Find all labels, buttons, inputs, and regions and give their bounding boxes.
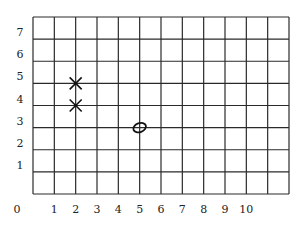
y-tick-label: 5 (17, 70, 24, 83)
x-tick-label: 3 (94, 203, 101, 216)
x-tick-label: 1 (51, 203, 58, 216)
x-tick-label: 6 (158, 203, 165, 216)
y-tick-label: 6 (17, 48, 24, 61)
tic-tac-toe-grid-diagram: 12345678910 1234567 0 (0, 0, 308, 227)
origin-label: 0 (14, 203, 21, 216)
grid-lines (33, 17, 289, 194)
y-axis-labels: 1234567 (17, 26, 24, 172)
x-tick-label: 5 (136, 203, 143, 216)
y-tick-label: 1 (17, 159, 24, 172)
x-tick-label: 8 (200, 203, 207, 216)
y-tick-label: 3 (17, 115, 24, 128)
x-axis-labels: 12345678910 (51, 203, 254, 216)
x-tick-label: 7 (179, 203, 186, 216)
x-tick-label: 10 (239, 203, 253, 216)
x-tick-label: 4 (115, 203, 122, 216)
x-tick-label: 2 (72, 203, 79, 216)
x-tick-label: 9 (222, 203, 229, 216)
y-tick-label: 2 (17, 137, 24, 150)
y-tick-label: 4 (17, 93, 24, 106)
y-tick-label: 7 (17, 26, 24, 39)
